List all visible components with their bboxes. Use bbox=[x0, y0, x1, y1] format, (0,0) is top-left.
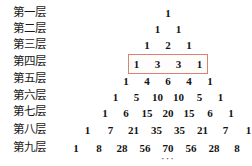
triangle-cell: 6 bbox=[200, 107, 221, 119]
triangle-row-5: 14641 bbox=[42, 75, 252, 87]
triangle-cell: 1 bbox=[210, 91, 231, 103]
triangle-cell: 1 bbox=[76, 124, 99, 136]
triangle-cell: 35 bbox=[145, 124, 168, 136]
triangle-cell: 4 bbox=[179, 75, 200, 87]
triangle-cell: 5 bbox=[126, 91, 147, 103]
triangle-cell: 15 bbox=[179, 107, 200, 119]
pascal-triangle-figure: 第一层第二层第三层第四层第五层第六层第七层第八层第九层 111121133114… bbox=[0, 0, 252, 166]
triangle-row-3: 121 bbox=[42, 39, 252, 51]
triangle-cell: 1 bbox=[200, 75, 221, 87]
triangle-cell: 1 bbox=[105, 91, 126, 103]
triangle-cell: 1 bbox=[158, 7, 179, 19]
triangle-row-2: 11 bbox=[42, 23, 252, 35]
triangle-cell: 3 bbox=[147, 58, 168, 70]
triangle-cell: 7 bbox=[214, 124, 237, 136]
triangle-cell: 1 bbox=[168, 23, 189, 35]
triangle-cell: 1 bbox=[237, 124, 252, 136]
triangle-cell: 4 bbox=[137, 75, 158, 87]
triangle-cell: 5 bbox=[189, 91, 210, 103]
triangle-cell: 1 bbox=[189, 58, 210, 70]
triangle-cell: 6 bbox=[116, 107, 137, 119]
triangle-cell: 10 bbox=[168, 91, 189, 103]
triangle-cell: 2 bbox=[158, 39, 179, 51]
triangle-cell: 21 bbox=[191, 124, 214, 136]
triangle-cell: 35 bbox=[168, 124, 191, 136]
triangle-cell: 1 bbox=[179, 39, 200, 51]
triangle-cell: 1 bbox=[95, 107, 116, 119]
triangle-row-8: 172135352171 bbox=[42, 124, 252, 136]
triangle-cell: 3 bbox=[168, 58, 189, 70]
triangle-cell: 1 bbox=[137, 39, 158, 51]
triangle-cell: 1 bbox=[147, 23, 168, 35]
triangle-cell: 7 bbox=[99, 124, 122, 136]
triangle-cell: 1 bbox=[116, 75, 137, 87]
triangle-rows: 1111211331146411510105116152015611721353… bbox=[0, 0, 252, 166]
triangle-cell: 10 bbox=[147, 91, 168, 103]
triangle-cell: 1 bbox=[126, 58, 147, 70]
triangle-cell: 15 bbox=[137, 107, 158, 119]
triangle-row-4: 1331 bbox=[42, 58, 252, 70]
triangle-row-1: 1 bbox=[42, 7, 252, 19]
triangle-cell: 20 bbox=[158, 107, 179, 119]
ellipsis-row: ··· bbox=[42, 152, 252, 164]
triangle-row-6: 15101051 bbox=[42, 91, 252, 103]
triangle-row-7: 1615201561 bbox=[42, 107, 252, 119]
triangle-cell: 6 bbox=[158, 75, 179, 87]
triangle-cell: 21 bbox=[122, 124, 145, 136]
triangle-cell: 1 bbox=[221, 107, 242, 119]
